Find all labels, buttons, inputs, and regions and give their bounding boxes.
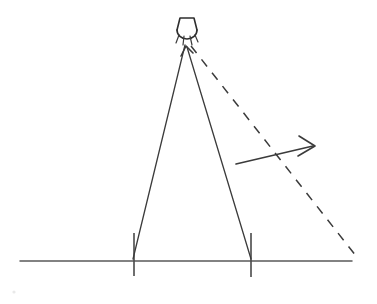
lamp-glow-tick-2-icon xyxy=(183,36,184,45)
lamp-shade-icon xyxy=(177,18,197,30)
lamp-glow-tick-4-icon xyxy=(195,35,198,42)
scan-speck xyxy=(12,290,15,293)
right-shadow-ray xyxy=(187,47,251,259)
lamp-bulb-icon xyxy=(177,30,197,39)
lamp-shadow-diagram xyxy=(0,0,377,304)
dashed-shadow-ray xyxy=(191,46,356,256)
motion-arrow-shaft xyxy=(236,146,313,164)
diagram-canvas xyxy=(0,0,377,304)
lamp-glow-tick-1-icon xyxy=(176,35,179,43)
left-shadow-ray xyxy=(133,45,185,259)
